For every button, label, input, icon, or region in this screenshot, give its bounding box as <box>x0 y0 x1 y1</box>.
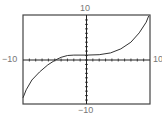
x-min-label: −10 <box>2 55 17 64</box>
x-max-label: 10 <box>153 55 162 64</box>
graph-plot <box>0 0 162 118</box>
function-curve <box>23 16 149 98</box>
y-max-label: 10 <box>80 4 90 13</box>
y-min-label: −10 <box>78 106 93 115</box>
